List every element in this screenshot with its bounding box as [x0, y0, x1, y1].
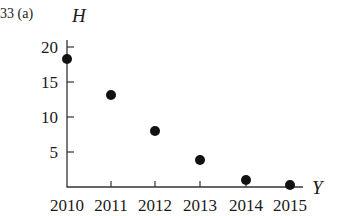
x-ticks: [111, 181, 290, 187]
data-point-2013: [195, 155, 205, 165]
data-points: [62, 54, 295, 190]
data-point-2011: [106, 90, 116, 100]
data-point-2010: [62, 54, 72, 64]
data-point-2012: [150, 126, 160, 136]
data-point-2014: [241, 175, 251, 185]
plot-area: [0, 0, 339, 216]
scatter-chart: 33 (a) H Y 20 15 10 5 2010 2011 2012 201…: [0, 0, 339, 216]
data-point-2015: [285, 180, 295, 190]
